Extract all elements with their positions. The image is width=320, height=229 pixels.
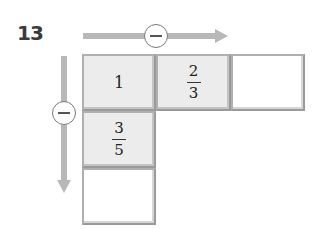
arrow-down-icon	[57, 180, 71, 193]
denominator: 5	[114, 143, 124, 158]
minus-circle-icon	[52, 101, 76, 125]
cell-r1c2: 2 3	[156, 54, 231, 111]
cell-r2c1: 3 5	[82, 111, 156, 168]
numerator: 3	[114, 121, 124, 136]
fraction: 2 3	[187, 64, 201, 101]
minus-circle-icon	[144, 24, 168, 48]
cell-r1c1: 1	[82, 54, 156, 111]
answer-cell-r3c1[interactable]	[82, 168, 156, 225]
denominator: 3	[189, 86, 199, 101]
fraction-bar	[187, 82, 201, 83]
answer-cell-r1c3[interactable]	[231, 54, 305, 111]
fraction: 3 5	[112, 121, 126, 158]
cell-value: 1	[114, 73, 124, 92]
numerator: 2	[189, 64, 199, 79]
arrow-right-icon	[215, 29, 228, 43]
fraction-bar	[112, 139, 126, 140]
question-number: 13	[17, 21, 43, 45]
